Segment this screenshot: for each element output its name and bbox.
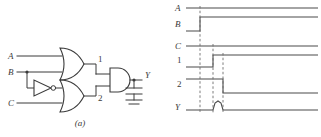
timing-label-node1: 1 xyxy=(177,55,182,65)
circuit-diagram-svg: A B C 1 2 xyxy=(0,0,160,120)
circuit-input-label-c: C xyxy=(8,98,15,108)
timing-diagram-svg: A B C 1 2 Y xyxy=(160,0,321,120)
or-gate-bottom-body xyxy=(60,80,84,112)
waveform-b xyxy=(186,17,318,31)
wire-b-branch-to-inverter xyxy=(27,72,34,88)
figure-container: A B C 1 2 xyxy=(0,0,321,137)
wire-or-bottom-to-node2 xyxy=(84,86,96,96)
wire-or-top-to-node1 xyxy=(84,64,96,74)
timing-label-y: Y xyxy=(175,102,181,112)
timing-label-b: B xyxy=(175,19,181,29)
timing-label-c: C xyxy=(175,41,182,51)
circuit-input-label-a: A xyxy=(7,51,14,61)
timing-label-node2: 2 xyxy=(177,79,182,89)
node-label-2: 2 xyxy=(98,93,103,103)
waveform-node2 xyxy=(186,79,318,93)
circuit-input-label-b: B xyxy=(8,67,14,77)
or-gate-top-body xyxy=(60,48,84,80)
inverter-gate-body xyxy=(34,80,51,96)
node-label-1: 1 xyxy=(98,54,103,64)
inverter-bubble-icon xyxy=(51,86,56,91)
waveform-node1 xyxy=(186,55,318,67)
timing-label-a: A xyxy=(174,3,181,13)
circuit-output-label-y: Y xyxy=(145,70,151,80)
waveform-y xyxy=(186,101,318,110)
caption-a: (a) xyxy=(50,118,110,128)
timing-panel: A B C 1 2 Y (b) xyxy=(160,0,321,137)
junction-dot-b xyxy=(25,70,28,73)
circuit-panel: A B C 1 2 xyxy=(0,0,160,137)
